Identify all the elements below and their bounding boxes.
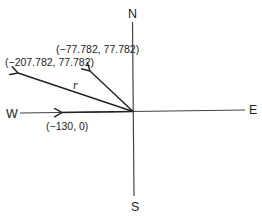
vector-nw-arrow bbox=[90, 71, 133, 112]
compass-north-label: N bbox=[128, 7, 137, 21]
vector-west-label: (−130, 0) bbox=[46, 120, 88, 132]
vector-resultant-label: (−207.782, 77.782) bbox=[5, 56, 94, 68]
compass-south-label: S bbox=[131, 200, 139, 214]
compass-east-label: E bbox=[249, 103, 257, 117]
vector-nw-label: (−77.782, 77.782) bbox=[56, 43, 139, 55]
vector-diagram: N S E W (−77.782, 77.782) (−207.782, 77.… bbox=[0, 0, 262, 218]
vector-west-arrow bbox=[62, 112, 133, 113]
resultant-r-label: r bbox=[73, 78, 78, 92]
compass-west-label: W bbox=[6, 107, 18, 121]
